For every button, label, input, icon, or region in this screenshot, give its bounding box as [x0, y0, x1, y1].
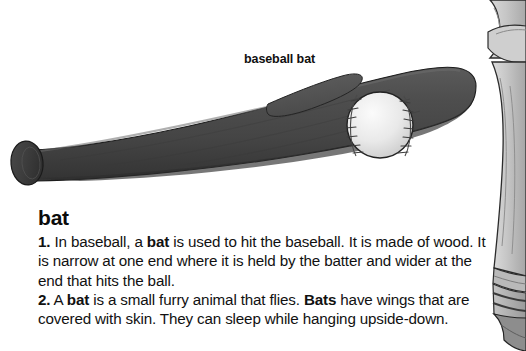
sense-2-number: 2. [38, 291, 50, 308]
baseball-bat-illustration [0, 0, 526, 200]
dictionary-entry-page: baseball bat [0, 0, 526, 351]
callout-label-baseball-bat: baseball bat [244, 52, 315, 66]
sense-2-text-a: A [50, 291, 66, 308]
sense-1-bold-bat: bat [147, 233, 169, 250]
baseball-shape [346, 92, 414, 158]
sense-2-text-b: is a small furry animal that flies. [89, 291, 304, 308]
sense-2: 2. A bat is a small furry animal that fl… [38, 290, 486, 328]
sense-2-bold-bats: Bats [304, 291, 336, 308]
sense-1-text-a: In baseball, a [50, 233, 146, 250]
dictionary-entry: bat 1. In baseball, a bat is used to hit… [38, 206, 486, 328]
sense-1-number: 1. [38, 233, 50, 250]
sense-2-bold-bat: bat [67, 291, 89, 308]
sense-1: 1. In baseball, a bat is used to hit the… [38, 232, 486, 290]
headword: bat [38, 206, 486, 229]
